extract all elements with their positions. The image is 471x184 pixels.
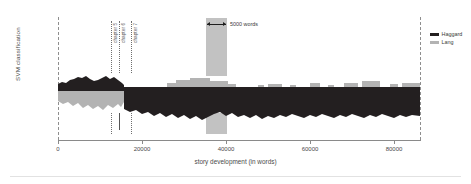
x-axis-label: story development (in words)	[0, 158, 471, 165]
legend-swatch-haggard	[430, 33, 439, 36]
series-band-haggard-above-thin	[124, 87, 420, 91]
series-bands	[58, 17, 421, 140]
series-band-lang-patch-f	[344, 83, 358, 87]
legend-item-haggard: Haggard	[430, 31, 462, 38]
legend-label-haggard: Haggard	[442, 31, 463, 38]
x-axis-tick-40000	[226, 140, 227, 144]
series-band-lang-patch-i	[402, 83, 420, 87]
x-axis-ticklabel-40000: 40000	[218, 146, 235, 152]
series-band-haggard-above	[58, 76, 124, 91]
series-band-lang-patch-h	[390, 84, 398, 87]
x-axis-ticklabel-60000: 60000	[302, 146, 319, 152]
legend-label-lang: Lang	[442, 39, 454, 46]
series-band-lang-patch-b	[268, 84, 282, 87]
series-band-lang-patch-e	[328, 85, 334, 87]
x-axis-tick-0	[58, 140, 59, 144]
x-axis-ticklabel-20000: 20000	[134, 146, 151, 152]
series-band-lang-patch-c	[290, 85, 296, 87]
x-axis-tick-80000	[394, 140, 395, 144]
chart-legend: Haggard Lang	[430, 31, 462, 47]
x-axis-tick-60000	[310, 140, 311, 144]
series-band-lang-below	[58, 91, 124, 110]
chart-figure: SVM classification 5000 words chapter 5 …	[0, 0, 471, 184]
series-band-lang-patch-a	[258, 85, 264, 87]
x-axis-ticklabel-0: 0	[56, 146, 59, 152]
x-axis-ticklabel-80000: 80000	[386, 146, 403, 152]
x-axis-tick-20000	[142, 140, 143, 144]
series-band-lang-patch-d	[310, 83, 320, 87]
bottom-separator	[10, 176, 461, 177]
series-band-haggard-below	[124, 91, 420, 120]
plot-area: 5000 words chapter 5 chapter 6 chapter 7	[58, 17, 421, 140]
legend-swatch-lang	[430, 41, 439, 44]
legend-item-lang: Lang	[430, 39, 462, 46]
y-axis-label: SVM classification	[14, 4, 26, 104]
x-axis-line	[58, 140, 421, 141]
series-band-lang-patch-g	[362, 81, 380, 87]
